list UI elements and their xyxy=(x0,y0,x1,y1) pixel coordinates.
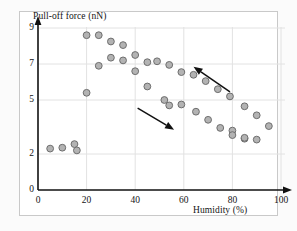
data-point xyxy=(178,101,185,108)
y-tick-label: 5 xyxy=(22,94,34,104)
data-point xyxy=(178,69,185,76)
y-tick-label: 7 xyxy=(22,58,34,68)
data-point xyxy=(166,62,173,69)
x-tick-label: 20 xyxy=(79,195,95,205)
data-point xyxy=(193,108,200,115)
data-point xyxy=(241,134,248,141)
axes xyxy=(35,16,292,193)
x-tick-label: 40 xyxy=(127,195,143,205)
data-point xyxy=(214,86,221,93)
data-point xyxy=(47,145,54,152)
data-point xyxy=(253,136,260,143)
data-point xyxy=(161,97,168,104)
data-point xyxy=(120,42,127,49)
x-tick-label: 0 xyxy=(30,195,46,205)
x-tick-label: 60 xyxy=(176,195,192,205)
data-point xyxy=(144,83,151,90)
data-point xyxy=(108,38,115,45)
data-point xyxy=(73,147,80,154)
figure-container: Pull-off force (nN) Humidity (%) 0204060… xyxy=(0,0,297,231)
data-point xyxy=(265,123,272,130)
data-point xyxy=(59,144,66,151)
x-tick-label: 100 xyxy=(273,195,289,205)
data-points-increasing xyxy=(47,32,273,154)
y-tick-label: 2 xyxy=(22,148,34,158)
data-point xyxy=(83,32,90,39)
data-point xyxy=(229,132,236,139)
y-tick-label: 9 xyxy=(22,22,34,32)
data-point xyxy=(241,103,248,110)
y-tick-label: 0 xyxy=(22,184,34,194)
data-point xyxy=(190,71,197,78)
arrow-decreasing-force-head xyxy=(165,122,175,130)
data-point xyxy=(166,102,173,109)
data-point xyxy=(227,93,234,100)
data-point xyxy=(120,57,127,64)
data-point xyxy=(95,32,102,39)
data-point xyxy=(253,112,260,119)
data-point xyxy=(83,89,90,96)
arrow-decreasing-force xyxy=(138,108,167,125)
data-point xyxy=(144,59,151,66)
data-point xyxy=(202,78,209,85)
x-tick-label: 80 xyxy=(224,195,240,205)
data-point xyxy=(132,52,139,59)
gridlines xyxy=(38,27,285,190)
data-point xyxy=(154,58,161,65)
data-point xyxy=(71,141,78,148)
data-point xyxy=(205,116,212,123)
data-point xyxy=(108,54,115,61)
data-point xyxy=(132,68,139,75)
data-point xyxy=(95,62,102,69)
data-point xyxy=(217,125,224,132)
